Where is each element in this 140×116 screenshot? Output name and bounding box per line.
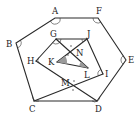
label-g: G bbox=[50, 29, 57, 39]
geometry-figure: A B C D E F G H I J K L M N bbox=[0, 0, 140, 116]
angle-e-arc bbox=[121, 56, 123, 64]
label-j: J bbox=[86, 29, 91, 39]
label-h: H bbox=[27, 56, 34, 66]
segment-ji bbox=[87, 39, 103, 74]
label-n: N bbox=[76, 48, 84, 58]
label-m: M bbox=[61, 78, 70, 88]
angle-mark-dot bbox=[70, 45, 71, 46]
angle-a-arc bbox=[51, 18, 61, 24]
label-l: L bbox=[84, 70, 90, 80]
label-f: F bbox=[96, 6, 102, 16]
label-c: C bbox=[29, 104, 36, 114]
label-k: K bbox=[48, 57, 55, 67]
angle-mark-dot bbox=[67, 54, 68, 55]
label-i: I bbox=[105, 69, 108, 79]
label-e: E bbox=[128, 55, 134, 65]
label-b: B bbox=[6, 39, 12, 49]
angle-mark-dot bbox=[73, 80, 74, 81]
label-a: A bbox=[51, 6, 59, 16]
label-d: D bbox=[95, 104, 102, 114]
angle-mark-dot bbox=[72, 89, 73, 90]
